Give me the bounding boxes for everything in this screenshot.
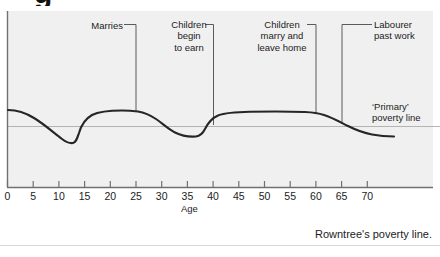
x-axis-title-text: Age <box>181 203 198 214</box>
x-tick-label-55: 55 <box>278 190 302 202</box>
annotation-primary-poverty-line-2: poverty line <box>372 112 438 123</box>
annotation-primary-poverty-line: ‘Primary’ poverty line <box>372 101 438 124</box>
annotation-labourer-past-work-line-1: Labourer <box>374 19 436 30</box>
x-tick-label-20: 20 <box>98 190 122 202</box>
annotation-children-begin-to-earn-line-3: to earn <box>163 42 215 53</box>
x-axis-tick-labels: 0510152025303540455055606570 <box>0 190 440 204</box>
annotation-marries: Marries <box>68 20 123 31</box>
annotation-marries-line-1: Marries <box>68 20 123 31</box>
x-tick-label-0: 0 <box>0 190 20 202</box>
x-tick-label-35: 35 <box>175 190 199 202</box>
x-tick-label-50: 50 <box>253 190 277 202</box>
annotation-children-begin-to-earn-line-1: Children <box>163 19 215 30</box>
x-tick-label-70: 70 <box>355 190 379 202</box>
caption-divider <box>0 245 440 246</box>
x-tick-label-65: 65 <box>330 190 354 202</box>
x-tick-label-40: 40 <box>201 190 225 202</box>
annotation-children-begin-to-earn: Children begin to earn <box>163 19 215 53</box>
x-tick-label-10: 10 <box>47 190 71 202</box>
figure-caption: Rowntree's poverty line. <box>0 228 432 240</box>
leader-line-marries <box>124 25 136 112</box>
annotation-labourer-past-work: Labourer past work <box>374 19 436 42</box>
x-tick-label-60: 60 <box>304 190 328 202</box>
annotation-children-marry-leave-home-line-2: marry and <box>248 30 316 41</box>
x-tick-label-5: 5 <box>21 190 45 202</box>
annotation-children-marry-leave-home-line-1: Children <box>248 19 316 30</box>
annotation-children-begin-to-earn-line-2: begin <box>163 30 215 41</box>
leader-line-labourer-past-work <box>342 25 372 124</box>
x-tick-label-30: 30 <box>150 190 174 202</box>
x-tick-label-25: 25 <box>124 190 148 202</box>
x-tick-label-45: 45 <box>227 190 251 202</box>
annotation-labourer-past-work-line-2: past work <box>374 30 436 41</box>
annotation-children-marry-leave-home: Children marry and leave home <box>248 19 316 53</box>
annotation-primary-poverty-line-1: ‘Primary’ <box>372 101 438 112</box>
x-axis-ticks <box>8 181 368 187</box>
x-tick-label-15: 15 <box>73 190 97 202</box>
annotation-children-marry-leave-home-line-3: leave home <box>248 42 316 53</box>
